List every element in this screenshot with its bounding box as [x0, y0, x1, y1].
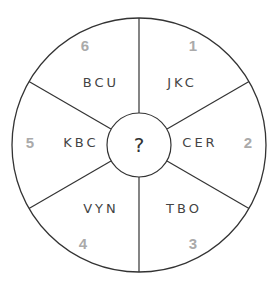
center-question-mark: ? [134, 133, 145, 157]
segment-number-1: 1 [189, 37, 197, 54]
segment-number-4: 4 [79, 235, 88, 252]
puzzle-wheel: ? 1 JKC 2 CER 3 TBO 4 VYN 5 KBC 6 BCU [0, 0, 277, 301]
segment-code-2: CER [182, 135, 217, 150]
segment-number-6: 6 [81, 37, 89, 54]
segment-code-1: JKC [166, 75, 197, 90]
segment-code-6: BCU [83, 75, 119, 90]
segment-code-3: TBO [165, 201, 202, 216]
segment-code-4: VYN [83, 201, 119, 216]
segment-number-3: 3 [189, 235, 197, 252]
segment-number-5: 5 [26, 134, 34, 151]
segment-number-2: 2 [244, 134, 252, 151]
segment-code-5: KBC [63, 135, 98, 150]
